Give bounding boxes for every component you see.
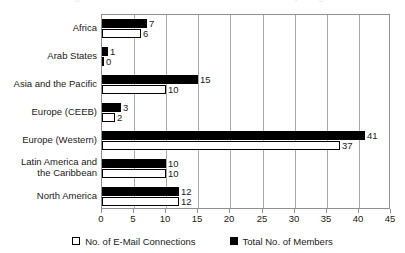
bar-members — [102, 131, 365, 140]
x-axis-tick-label: 35 — [314, 213, 338, 224]
x-axis-tick-labels: 051015202530354045 — [101, 213, 390, 226]
x-axis-tick-label: 30 — [282, 213, 306, 224]
bar-value-label-email-connections: 37 — [342, 141, 353, 150]
category-label: North America — [0, 190, 97, 201]
bar-value-label-members: 41 — [367, 131, 378, 140]
bar-email-connections — [102, 197, 179, 206]
chart-title-sliver: Figure: E-Mail Connections and Members b… — [0, 0, 405, 7]
plot-area: 7610151032413710101212 — [101, 14, 390, 209]
bar-members — [102, 103, 121, 112]
category-label-line: Arab States — [0, 50, 97, 61]
bar-value-label-email-connections: 2 — [117, 113, 122, 122]
category-label: Arab States — [0, 50, 97, 61]
x-axis-tick-label: 15 — [185, 213, 209, 224]
category-label: Europe (Western) — [0, 134, 97, 145]
bar-value-label-email-connections: 0 — [106, 57, 111, 66]
legend-item[interactable]: No. of E-Mail Connections — [72, 236, 195, 247]
category-label: Europe (CEEB) — [0, 106, 97, 117]
filled-square-marker — [230, 237, 238, 245]
bar-value-label-members: 1 — [110, 47, 115, 56]
x-axis-tick-label: 5 — [121, 213, 145, 224]
category-label: Asia and the Pacific — [0, 78, 97, 89]
bar-email-connections — [102, 85, 166, 94]
category-label-line: Latin America and — [0, 156, 97, 167]
bar-value-label-email-connections: 10 — [168, 169, 179, 178]
category-axis-labels: AfricaArab StatesAsia and the PacificEur… — [0, 14, 97, 209]
bar-members — [102, 75, 198, 84]
bar-email-connections — [102, 169, 166, 178]
bar-email-connections — [102, 113, 115, 122]
bar-group: 1212 — [102, 182, 389, 210]
category-label-line: North America — [0, 190, 97, 201]
bar-group: 1010 — [102, 154, 389, 182]
bar-email-connections — [102, 57, 104, 66]
legend-label: Total No. of Members — [243, 236, 333, 247]
category-label-line: Africa — [0, 22, 97, 33]
bar-group: 10 — [102, 43, 389, 71]
bar-value-label-members: 3 — [123, 103, 128, 112]
category-label: Africa — [0, 22, 97, 33]
x-axis-tick-label: 40 — [346, 213, 370, 224]
bar-value-label-members: 12 — [181, 187, 192, 196]
open-square-marker — [72, 237, 80, 245]
bar-value-label-email-connections: 10 — [168, 85, 179, 94]
category-label-line: Europe (CEEB) — [0, 106, 97, 117]
x-axis-tick-label: 10 — [153, 213, 177, 224]
bar-group: 4137 — [102, 126, 389, 154]
x-axis-tick-label: 25 — [250, 213, 274, 224]
bar-value-label-email-connections: 6 — [143, 29, 148, 38]
bar-chart: Figure: E-Mail Connections and Members b… — [0, 0, 405, 253]
bar-value-label-members: 10 — [168, 159, 179, 168]
bar-members — [102, 47, 108, 56]
category-label-line: the Caribbean — [0, 167, 97, 178]
x-axis-tick-label: 0 — [89, 213, 113, 224]
bar-members — [102, 159, 166, 168]
legend-item[interactable]: Total No. of Members — [230, 236, 333, 247]
chart-title: Figure: E-Mail Connections and Members b… — [0, 0, 405, 2]
bar-group: 76 — [102, 15, 389, 43]
legend-label: No. of E-Mail Connections — [85, 236, 195, 247]
x-axis-tick-label: 45 — [378, 213, 402, 224]
bar-email-connections — [102, 29, 141, 38]
bar-group: 1510 — [102, 71, 389, 99]
bar-members — [102, 19, 147, 28]
bar-value-label-members: 7 — [149, 19, 154, 28]
bar-group: 32 — [102, 99, 389, 127]
bar-email-connections — [102, 141, 340, 150]
chart-legend: No. of E-Mail ConnectionsTotal No. of Me… — [0, 234, 405, 248]
category-label-line: Europe (Western) — [0, 134, 97, 145]
category-label-line: Asia and the Pacific — [0, 78, 97, 89]
category-label: Latin America andthe Caribbean — [0, 156, 97, 178]
bar-value-label-members: 15 — [200, 75, 211, 84]
bar-rows: 7610151032413710101212 — [102, 15, 389, 208]
bar-members — [102, 187, 179, 196]
bar-value-label-email-connections: 12 — [181, 197, 192, 206]
x-axis-tick-label: 20 — [217, 213, 241, 224]
